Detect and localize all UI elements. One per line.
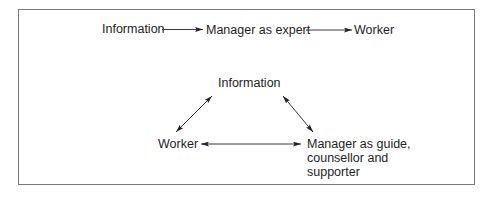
triangle-node-worker: Worker xyxy=(158,137,198,151)
triangle-node-manager-as-guide: Manager as guide, counsellor and support… xyxy=(307,137,411,179)
top-node-information: Information xyxy=(102,22,165,36)
top-node-worker: Worker xyxy=(354,23,394,37)
manager-guide-line-3: supporter xyxy=(307,165,411,179)
top-node-manager-as-expert: Manager as expert xyxy=(206,23,310,37)
manager-guide-line-1: Manager as guide, xyxy=(307,137,411,151)
triangle-node-information: Information xyxy=(218,76,281,90)
manager-guide-line-2: counsellor and xyxy=(307,151,411,165)
